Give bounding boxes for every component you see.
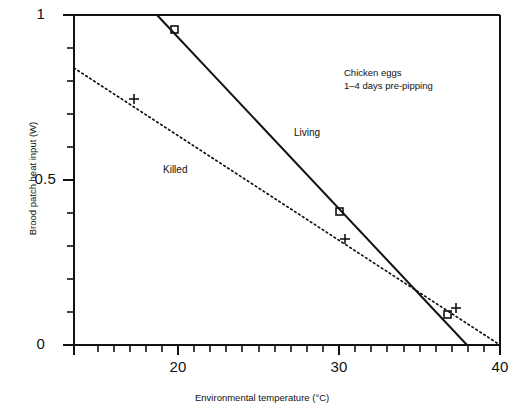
x-tick-label-20: 20 (169, 358, 186, 375)
y-axis-title: Brood patch heat input (W) (27, 84, 38, 274)
y-tick-label-0.5: 0.5 (35, 170, 56, 187)
series-label-living: Living (294, 127, 320, 138)
killed-fit-line (74, 68, 500, 345)
annotation-line-2: 1–4 days pre-pipping (344, 79, 433, 92)
chart-figure: 1 0.5 0 20 30 40 Brood patch heat input … (0, 0, 515, 414)
annotation-line-1: Chicken eggs (344, 66, 433, 79)
y-tick-label-0: 0 (36, 335, 45, 352)
x-tick-label-40: 40 (491, 358, 508, 375)
chart-annotation: Chicken eggs 1–4 days pre-pipping (344, 66, 433, 92)
x-tick-label-30: 30 (330, 358, 347, 375)
plot-frame (74, 15, 500, 345)
x-axis-ticks (74, 345, 500, 355)
plot-canvas (0, 0, 515, 414)
living-fit-line (157, 15, 467, 345)
data-point-killed-3 (451, 303, 461, 313)
y-tick-label-1: 1 (36, 5, 45, 22)
series-label-killed: Killed (163, 164, 187, 175)
y-axis-ticks (63, 15, 74, 345)
data-point-killed-1 (129, 94, 139, 104)
x-axis-title: Environmental temperature (°C) (195, 392, 329, 403)
